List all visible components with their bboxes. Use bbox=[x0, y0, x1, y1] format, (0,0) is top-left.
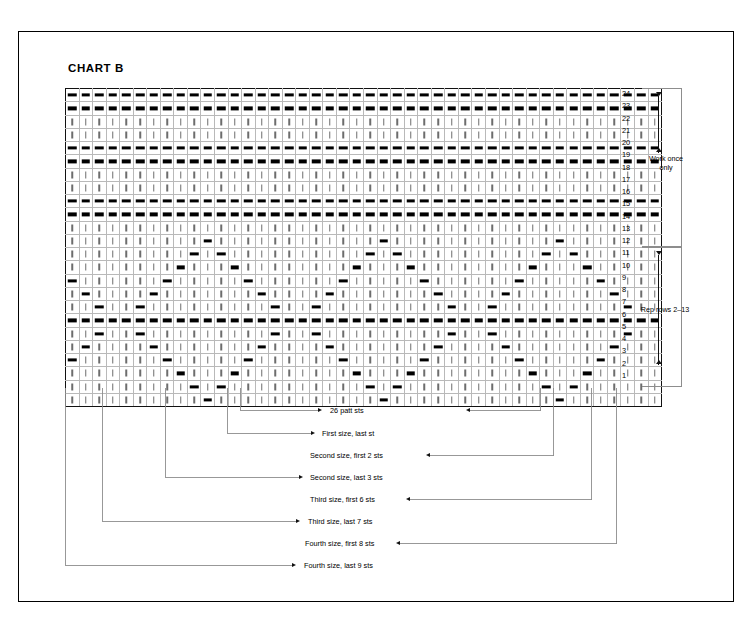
chart-cell bbox=[418, 221, 432, 234]
knitting-chart-grid bbox=[65, 88, 662, 407]
chart-cell bbox=[296, 367, 310, 380]
chart-cell bbox=[472, 367, 486, 380]
chart-cell bbox=[499, 314, 513, 327]
knit-symbol bbox=[99, 290, 101, 297]
purl-symbol bbox=[380, 94, 389, 97]
knit-symbol bbox=[613, 330, 615, 337]
chart-cell bbox=[296, 287, 310, 300]
chart-row bbox=[66, 115, 662, 128]
knit-symbol bbox=[72, 290, 74, 297]
purl-symbol bbox=[393, 319, 402, 322]
knit-symbol bbox=[383, 290, 385, 297]
purl-symbol bbox=[271, 332, 280, 335]
chart-cell bbox=[567, 115, 581, 128]
knit-symbol bbox=[586, 184, 588, 191]
chart-cell bbox=[350, 181, 364, 194]
chart-cell bbox=[282, 248, 296, 261]
chart-cell bbox=[93, 115, 107, 128]
knit-symbol bbox=[166, 237, 168, 244]
knit-symbol bbox=[559, 304, 561, 311]
chart-cell bbox=[228, 380, 242, 393]
knit-symbol bbox=[600, 396, 602, 403]
knit-symbol bbox=[532, 277, 534, 284]
row-number: 20 bbox=[622, 137, 630, 149]
purl-symbol bbox=[285, 200, 294, 203]
chart-row bbox=[66, 274, 662, 287]
chart-cell bbox=[174, 181, 188, 194]
purl-symbol bbox=[339, 213, 348, 216]
chart-cell bbox=[458, 221, 472, 234]
knit-symbol bbox=[261, 118, 263, 125]
chart-cell bbox=[350, 221, 364, 234]
knit-symbol bbox=[180, 224, 182, 231]
chart-cell bbox=[309, 248, 323, 261]
knit-symbol bbox=[288, 370, 290, 377]
repeat-arrow-down-icon bbox=[656, 360, 662, 364]
purl-symbol bbox=[163, 200, 172, 203]
chart-cell bbox=[201, 301, 215, 314]
purl-symbol bbox=[407, 200, 416, 203]
chart-cell bbox=[106, 314, 120, 327]
purl-symbol bbox=[325, 160, 334, 163]
knit-symbol bbox=[505, 264, 507, 271]
chart-cell bbox=[594, 89, 608, 102]
chart-cell bbox=[228, 89, 242, 102]
knit-symbol bbox=[410, 171, 412, 178]
chart-cell bbox=[404, 380, 418, 393]
knit-symbol bbox=[99, 357, 101, 364]
purl-symbol bbox=[434, 345, 443, 348]
knit-symbol bbox=[248, 118, 250, 125]
knit-symbol bbox=[302, 357, 304, 364]
purl-symbol bbox=[258, 213, 267, 216]
chart-cell bbox=[174, 195, 188, 208]
purl-symbol bbox=[488, 147, 497, 150]
knit-symbol bbox=[573, 290, 575, 297]
chart-cell bbox=[458, 168, 472, 181]
chart-cell bbox=[282, 195, 296, 208]
chart-cell bbox=[269, 221, 283, 234]
knit-symbol bbox=[424, 383, 426, 390]
purl-symbol bbox=[325, 200, 334, 203]
chart-cell bbox=[282, 393, 296, 406]
purl-symbol bbox=[190, 160, 199, 163]
purl-symbol bbox=[203, 94, 212, 97]
chart-cell bbox=[336, 393, 350, 406]
purl-symbol bbox=[163, 319, 172, 322]
chart-cell bbox=[580, 195, 594, 208]
chart-cell bbox=[309, 115, 323, 128]
chart-cell bbox=[133, 367, 147, 380]
chart-cell bbox=[106, 367, 120, 380]
knit-symbol bbox=[221, 304, 223, 311]
knit-symbol bbox=[424, 330, 426, 337]
purl-symbol bbox=[339, 160, 348, 163]
purl-symbol bbox=[122, 200, 131, 203]
chart-cell bbox=[133, 380, 147, 393]
purl-symbol bbox=[407, 319, 416, 322]
chart-cell bbox=[255, 380, 269, 393]
chart-cell bbox=[215, 340, 229, 353]
knit-symbol bbox=[478, 131, 480, 138]
knit-symbol bbox=[234, 224, 236, 231]
chart-cell bbox=[323, 287, 337, 300]
knit-symbol bbox=[302, 383, 304, 390]
knit-symbol bbox=[261, 304, 263, 311]
chart-cell bbox=[364, 393, 378, 406]
chart-cell bbox=[133, 208, 147, 221]
chart-cell bbox=[255, 142, 269, 155]
purl-symbol bbox=[231, 160, 240, 163]
chart-cell bbox=[499, 102, 513, 115]
knit-symbol bbox=[464, 370, 466, 377]
chart-cell bbox=[187, 340, 201, 353]
knit-symbol bbox=[315, 370, 317, 377]
chart-cell bbox=[540, 248, 554, 261]
purl-symbol bbox=[434, 200, 443, 203]
chart-cell bbox=[187, 128, 201, 141]
purl-symbol bbox=[312, 306, 321, 309]
chart-cell bbox=[377, 287, 391, 300]
knit-symbol bbox=[491, 118, 493, 125]
knit-symbol bbox=[85, 251, 87, 258]
chart-cell bbox=[66, 168, 80, 181]
chart-cell bbox=[607, 367, 621, 380]
chart-cell bbox=[472, 142, 486, 155]
chart-cell bbox=[580, 102, 594, 115]
